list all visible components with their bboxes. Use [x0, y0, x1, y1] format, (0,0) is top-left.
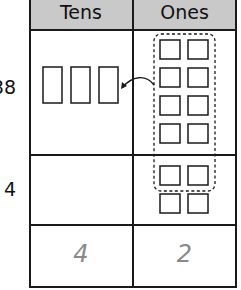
- tens-rod: [99, 67, 118, 103]
- ones-cube: [160, 96, 180, 115]
- ones-cube: [160, 194, 180, 213]
- ones-cube: [188, 68, 208, 87]
- ones-cube: [188, 124, 208, 143]
- ones-cube: [160, 40, 180, 59]
- ones-cube: [188, 194, 208, 213]
- ones-cube: [188, 166, 208, 185]
- base-ten-blocks: [0, 0, 241, 290]
- regroup-arrow: [123, 78, 154, 87]
- tens-rod: [43, 67, 62, 103]
- tens-rod: [71, 67, 90, 103]
- ones-cube: [188, 40, 208, 59]
- ones-cube: [160, 68, 180, 87]
- group-of-ten-outline: [154, 34, 215, 191]
- ones-cube: [160, 124, 180, 143]
- ones-cube: [160, 166, 180, 185]
- ones-cube: [188, 96, 208, 115]
